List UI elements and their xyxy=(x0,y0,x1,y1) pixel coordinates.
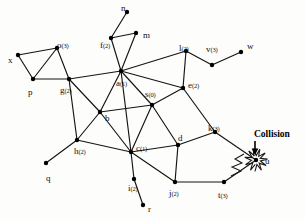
node-t[interactable] xyxy=(222,180,226,184)
node-layer xyxy=(16,10,258,207)
node-g[interactable] xyxy=(67,77,71,81)
node-label-t: t(3) xyxy=(218,191,228,200)
node-f[interactable] xyxy=(109,36,113,40)
node-j[interactable] xyxy=(173,180,177,184)
node-label-v: v(3) xyxy=(206,45,217,54)
node-s[interactable] xyxy=(150,103,154,107)
node-c[interactable] xyxy=(129,150,133,154)
edge-h-q xyxy=(46,140,77,163)
edge-d-k xyxy=(178,132,215,145)
edge-x-p xyxy=(18,55,33,79)
edge-c-j xyxy=(131,152,175,182)
edge-l-e xyxy=(183,51,186,88)
edge-a-e xyxy=(121,71,183,88)
node-label-h: h(2) xyxy=(74,147,85,156)
node-m[interactable] xyxy=(134,31,138,35)
node-label-d: d xyxy=(178,134,183,143)
node-label-n: n xyxy=(121,4,126,13)
burst-tail xyxy=(231,154,244,176)
node-label-w: w xyxy=(247,42,254,51)
edge-m-a xyxy=(121,33,136,71)
node-d[interactable] xyxy=(176,143,180,147)
down-arrow-icon xyxy=(246,140,264,158)
edge-g-a xyxy=(69,71,121,79)
edge-a-l xyxy=(121,51,186,71)
node-e[interactable] xyxy=(181,86,185,90)
node-label-r: r xyxy=(148,205,151,214)
node-label-g: g(2) xyxy=(60,86,71,95)
node-label-s: s(0) xyxy=(145,90,156,99)
node-label-x: x xyxy=(8,56,13,65)
edge-f-a xyxy=(111,38,121,71)
edge-n-f xyxy=(111,12,127,38)
node-label-c: c(1) xyxy=(136,144,147,153)
node-label-k: k(3) xyxy=(208,124,219,133)
node-v[interactable] xyxy=(210,63,214,67)
edge-o-g xyxy=(57,48,69,79)
edge-g-b xyxy=(69,79,100,112)
node-label-f: f(2) xyxy=(100,41,110,50)
edge-x-o xyxy=(18,48,57,55)
edge-layer xyxy=(18,12,256,205)
node-label-o: o(3) xyxy=(57,41,68,50)
edge-s-d xyxy=(152,105,178,145)
node-i[interactable] xyxy=(132,177,136,181)
node-label-a: a(1) xyxy=(116,79,127,88)
node-r[interactable] xyxy=(141,203,145,207)
node-a[interactable] xyxy=(119,69,123,73)
node-label-m: m xyxy=(143,31,150,40)
node-u[interactable] xyxy=(254,158,258,162)
node-w[interactable] xyxy=(239,50,243,54)
node-label-p: p xyxy=(28,88,33,97)
node-b[interactable] xyxy=(98,110,102,114)
edge-b-h xyxy=(77,112,100,140)
edge-e-s xyxy=(152,88,183,105)
node-label-i: i(2) xyxy=(128,184,138,193)
edge-c-i xyxy=(131,152,134,179)
node-label-b: b xyxy=(105,114,110,123)
node-h[interactable] xyxy=(75,138,79,142)
edge-o-p xyxy=(33,48,57,79)
node-label-j: j(2) xyxy=(169,189,179,198)
collision-label: Collision xyxy=(254,130,290,140)
node-label-e: e(2) xyxy=(188,81,199,90)
edge-d-j xyxy=(175,145,178,182)
node-q[interactable] xyxy=(44,161,48,165)
node-p[interactable] xyxy=(31,77,35,81)
node-label-u: u xyxy=(265,157,270,166)
network-graph xyxy=(0,0,306,219)
edge-f-m xyxy=(111,33,136,38)
node-label-q: q xyxy=(46,174,51,183)
edge-a-s xyxy=(121,71,152,105)
node-x[interactable] xyxy=(16,53,20,57)
diagram-canvas: xo(3)pg(2)nf(2)ma(1)l(2)v(3)we(2)s(0)bh(… xyxy=(0,0,306,219)
node-label-l: l(2) xyxy=(179,44,189,53)
